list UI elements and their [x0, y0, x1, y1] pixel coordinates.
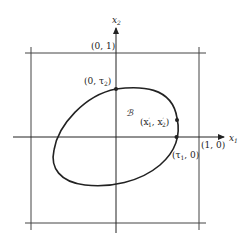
- x2-axis-label: x2: [112, 15, 121, 26]
- label-tau1: (τ1, 0): [172, 150, 199, 161]
- point-tau2: [114, 87, 118, 91]
- region-b-label: ℬ: [126, 108, 134, 118]
- label-top-box: (0, 1): [91, 41, 115, 51]
- x1-axis-label: x1: [229, 133, 238, 144]
- point-tau1: [175, 135, 179, 139]
- point-xprime: [175, 118, 179, 122]
- label-right-box: (1, 0): [201, 140, 225, 150]
- label-xprime: (x′1, x′2): [140, 116, 169, 128]
- label-tau2: (0, τ2): [84, 76, 111, 87]
- diagram: x2 x1 (0, 1) (1, 0) (0, τ2) (τ1, 0) (x′1…: [0, 0, 252, 250]
